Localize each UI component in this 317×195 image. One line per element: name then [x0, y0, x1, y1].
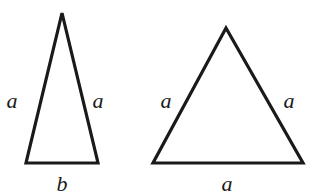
equilateral-left-side-label: a: [161, 90, 172, 112]
triangle-diagram: a a b a a a: [0, 0, 317, 195]
isosceles-base-label: b: [57, 173, 68, 195]
isosceles-left-side-label: a: [7, 90, 18, 112]
isosceles-right-side-label: a: [93, 90, 104, 112]
triangles-svg: [0, 0, 317, 195]
isosceles-triangle: [26, 13, 98, 163]
equilateral-right-side-label: a: [284, 90, 295, 112]
equilateral-base-label: a: [222, 173, 233, 195]
equilateral-triangle: [153, 28, 303, 163]
